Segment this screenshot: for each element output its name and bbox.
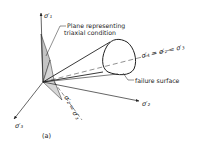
failure-surface-outline [103,39,136,74]
sigma3-label: σ′₃ [15,122,24,130]
plane-annotation-line2: triaxial condition [64,29,116,36]
sigma3-axis [14,82,43,119]
failure-surface-label: failure surface [135,77,180,84]
plane-leader [46,26,66,56]
failure-cone [43,39,136,82]
figure-caption: (a) [42,132,51,140]
failure-surface-diagram: σ′₁ σ′₂ σ′₃ Plane representing triaxial … [0,0,203,149]
sigma1-label: σ′₁ [44,12,53,20]
space-diagonal-label: σ′₁ = σ′₂ = σ′₃ [141,43,186,60]
sigma2-label: σ′₂ [142,100,151,108]
plane-trace-label: σ′₂ = σ′₃ [62,94,81,121]
